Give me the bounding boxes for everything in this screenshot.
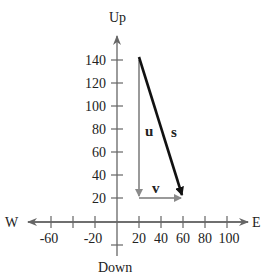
x-tick-label: -20	[84, 231, 103, 246]
horizontal-axis	[28, 216, 248, 228]
y-tick-label: 100	[85, 99, 106, 114]
x-tick-label: 60	[176, 231, 190, 246]
y-tick-label: 140	[85, 53, 106, 68]
y-tick-label: 20	[92, 191, 106, 206]
vector-u-label: u	[145, 123, 153, 139]
y-tick-label: 120	[85, 76, 106, 91]
vector-v-label: v	[152, 180, 160, 196]
x-tick-label: 80	[198, 231, 212, 246]
x-tick-label: 20	[132, 231, 146, 246]
x-tick-label: 100	[219, 231, 240, 246]
vector-s-label: s	[171, 124, 177, 140]
y-tick-label: 40	[92, 168, 106, 183]
y-tick-label: 60	[92, 145, 106, 160]
down-label: Down	[98, 260, 132, 275]
up-label: Up	[109, 10, 126, 25]
vertical-axis	[111, 36, 123, 256]
x-tick-label: 40	[154, 231, 168, 246]
west-label: W	[5, 215, 19, 230]
east-label: E	[252, 215, 261, 230]
y-tick-label: 80	[92, 122, 106, 137]
x-tick-label: -60	[40, 231, 59, 246]
vector-diagram: Up Down W E 140 120 100 80 60 40 20 -60 …	[0, 0, 271, 278]
